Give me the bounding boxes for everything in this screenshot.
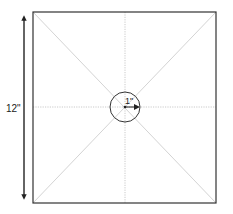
- side-length-label: 12": [6, 103, 21, 114]
- radius-label: 1": [125, 96, 133, 106]
- center-point: [124, 106, 127, 109]
- diagram-canvas: 1" 12": [0, 0, 233, 214]
